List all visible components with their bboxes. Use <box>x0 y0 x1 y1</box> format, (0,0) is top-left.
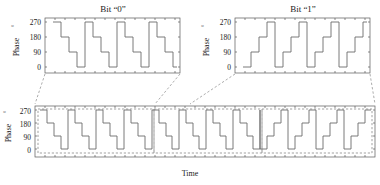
svg-text:Phase: Phase <box>202 37 211 56</box>
connector-bit0-left <box>35 74 45 104</box>
stream-waveform-seg2 <box>152 110 260 149</box>
bit0-ytick-180: 180 <box>30 33 42 42</box>
stream-ytick-270: 270 <box>20 107 32 116</box>
bit1-ytick-180: 180 <box>220 33 232 42</box>
panel-bitstream: 270 180 90 0 Phase ° Time <box>3 106 376 178</box>
panel-bit0: Bit “0” 270 180 90 0 Phase ° <box>11 4 181 73</box>
stream-bit-box-3 <box>262 109 372 153</box>
bit1-plot-frame <box>235 18 370 73</box>
connector-bit1-right <box>370 74 375 104</box>
stream-bit-box-2 <box>154 109 262 153</box>
stream-waveform-seg1 <box>40 110 152 149</box>
panel-bit0-title: Bit “0” <box>100 4 126 14</box>
bit1-waveform <box>243 22 367 67</box>
bit0-ytick-90: 90 <box>34 48 42 57</box>
connector-bit1-left <box>190 74 235 104</box>
bit0-ytick-270: 270 <box>30 18 42 27</box>
bit0-ytick-0: 0 <box>37 63 41 72</box>
stream-ytick-0: 0 <box>27 146 31 155</box>
bit0-tickmarks <box>45 18 180 73</box>
stream-xaxis-label: Time <box>182 169 199 178</box>
svg-text:Phase: Phase <box>4 123 13 142</box>
panel-bit1: Bit “1” 270 180 90 0 Phase ° <box>201 4 371 73</box>
bit0-plot-frame <box>45 18 180 73</box>
zoom-connectors <box>35 74 375 104</box>
bit1-tickmarks <box>235 18 370 73</box>
phase-coding-figure: Bit “0” 270 180 90 0 Phase ° Bit “1” 270… <box>0 0 380 185</box>
stream-yaxis-label: Phase ° <box>3 111 14 143</box>
stream-waveform-seg3 <box>260 110 371 149</box>
bit1-ytick-90: 90 <box>224 48 232 57</box>
svg-text:°: ° <box>201 25 207 27</box>
bit0-waveform <box>53 22 177 67</box>
bit1-ytick-270: 270 <box>220 18 232 27</box>
svg-text:Phase: Phase <box>12 37 21 56</box>
bit1-ytick-0: 0 <box>227 63 231 72</box>
stream-ytick-90: 90 <box>24 133 32 142</box>
connector-bit0-right <box>155 74 180 104</box>
stream-ytick-180: 180 <box>20 120 32 129</box>
svg-text:°: ° <box>11 25 17 27</box>
bit0-yaxis-label: Phase ° <box>11 25 22 57</box>
panel-bit1-title: Bit “1” <box>290 4 316 14</box>
svg-text:°: ° <box>3 111 9 113</box>
bit1-yaxis-label: Phase ° <box>201 25 212 57</box>
